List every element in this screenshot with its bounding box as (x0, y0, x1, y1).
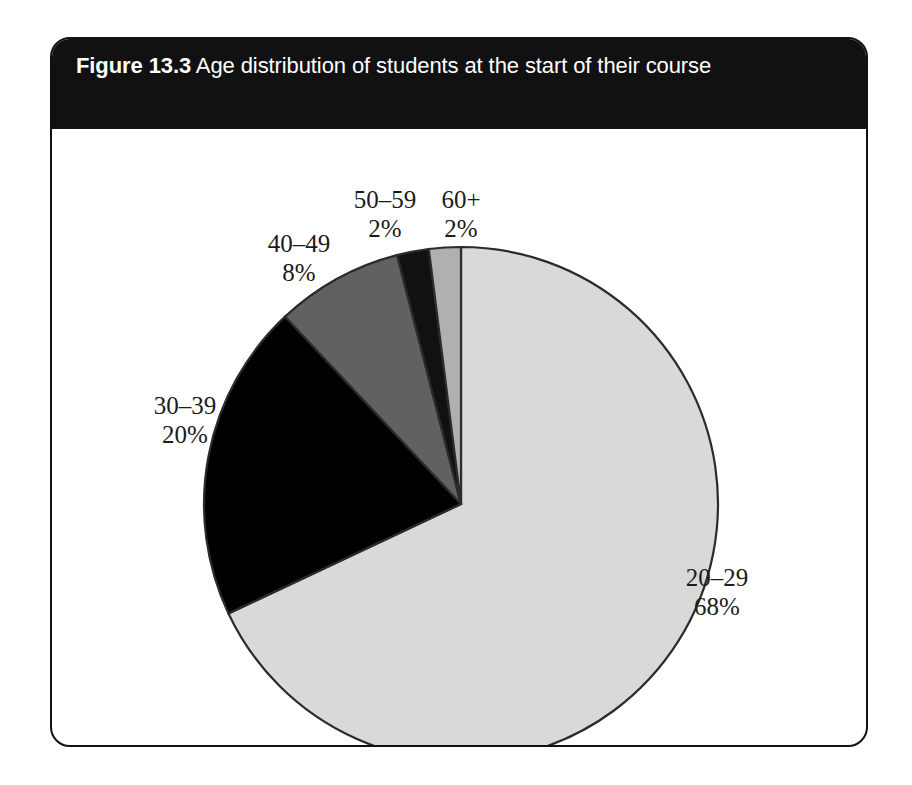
pie-label-50-59-name: 50–59 (342, 185, 428, 214)
figure-caption: Figure 13.3 Age distribution of students… (76, 51, 846, 81)
pie-label-50-59-value: 2% (342, 214, 428, 243)
figure-caption-banner: Figure 13.3 Age distribution of students… (50, 37, 868, 129)
pie-label-20-29-name: 20–29 (670, 563, 764, 592)
pie-label-50-59: 50–59 2% (342, 185, 428, 243)
pie-label-40-49-name: 40–49 (256, 229, 342, 258)
pie-chart-plot-area: 60+ 2% 50–59 2% 40–49 8% 30–39 20% 20–29… (52, 129, 866, 747)
pie-label-30-39: 30–39 20% (140, 391, 230, 449)
pie-label-60-plus-name: 60+ (426, 185, 496, 214)
pie-label-60-plus-value: 2% (426, 214, 496, 243)
pie-label-40-49-value: 8% (256, 258, 342, 287)
pie-slices (204, 247, 718, 747)
pie-label-30-39-name: 30–39 (140, 391, 230, 420)
figure-frame: Figure 13.3 Age distribution of students… (50, 37, 868, 747)
pie-label-20-29-value: 68% (670, 592, 764, 621)
pie-label-40-49: 40–49 8% (256, 229, 342, 287)
pie-label-60-plus: 60+ 2% (426, 185, 496, 243)
pie-label-20-29: 20–29 68% (670, 563, 764, 621)
figure-number: Figure 13.3 (76, 53, 191, 78)
figure-caption-text: Age distribution of students at the star… (191, 53, 711, 78)
pie-label-30-39-value: 20% (140, 420, 230, 449)
